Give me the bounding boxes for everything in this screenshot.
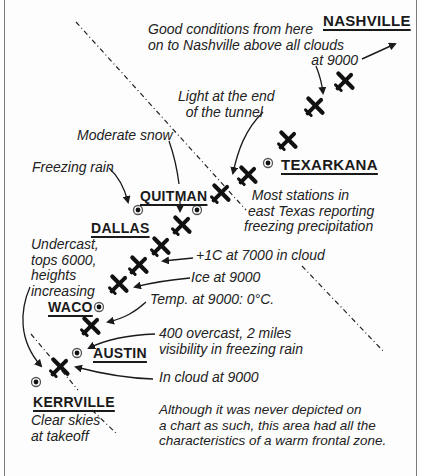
airplane-icon-7 [207,180,235,208]
arrow-moderate-snow [169,141,179,184]
airplane-icon-10 [301,93,329,121]
city-label-austin: AUSTIN [93,345,147,361]
arrow-temp [108,302,146,322]
station-marker-quitman-right [193,206,202,215]
note-most-stations: Most stations in east Texas reporting fr… [244,188,374,235]
arrow-light-tunnel [233,112,263,173]
station-marker-austin [73,349,82,358]
arrow-good-conditions [316,66,323,93]
arrow-ice [135,278,190,287]
station-marker-waco [95,303,104,312]
city-label-dallas: DALLAS [91,220,150,236]
city-label-kerrville: KERRVILLE [33,394,115,410]
station-marker-kerrville [32,378,41,387]
note-in-cloud: In cloud at 9000 [159,370,259,386]
airplane-icon-8 [234,162,262,190]
note-good-conditions: Good conditions from here on to Nashvill… [148,22,358,69]
note-temp: Temp. at 9000: 0°C. [150,292,274,308]
note-freezing-rain: Freezing rain [32,160,114,176]
airplane-icon-4 [125,252,153,280]
city-label-quitman: QUITMAN [140,188,207,204]
city-label-waco: WACO [48,299,93,315]
station-marker-quitman-left [134,206,143,215]
note-clear-skies: Clear skies at takeoff [31,413,100,444]
airplane-icon-9 [274,127,302,155]
arrow-in-cloud [76,367,153,379]
airplane-icon-11 [331,68,359,96]
airplane-icon-5 [147,233,175,261]
station-marker-texarkana [264,159,273,168]
note-warm-front: Although it was never depicted on a char… [159,402,386,449]
airplane-icon-2 [77,313,105,341]
note-moderate-snow: Moderate snow [77,128,173,144]
city-label-texarkana: TEXARKANA [281,156,378,173]
note-undercast: Undercast, tops 6000, heights increasing [31,237,99,299]
note-overcast400: 400 overcast, 2 miles visibility in free… [159,326,303,357]
arrow-plus1c [163,258,193,261]
note-light-tunnel: Light at the end of the tunnel [178,89,275,120]
airplane-icon-1 [46,354,74,382]
note-ice: Ice at 9000 [191,270,260,286]
note-plus1c: +1C at 7000 in cloud [196,248,325,264]
airplane-icon-6 [168,212,196,240]
airplane-icon-3 [105,271,133,299]
arrow-to-nashville [362,44,395,59]
